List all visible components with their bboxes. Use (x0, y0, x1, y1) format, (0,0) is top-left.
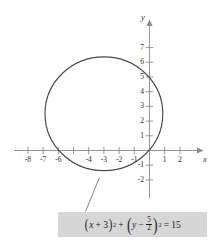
equation-rhs: 15 (171, 220, 181, 230)
x-tick-label: -6 (55, 156, 61, 164)
fraction-numerator: 5 (146, 217, 152, 224)
y-tick-label: 1 (130, 132, 144, 140)
close-paren-2: ) (153, 215, 158, 234)
circle-graph-figure: -8 -7 -6 -4 -3 -2 -1 1 2 7 6 5 4 3 2 1 -… (0, 0, 216, 242)
x-tick-label: -3 (101, 156, 107, 164)
y-tick-label: 4 (130, 88, 144, 96)
y-tick-label: 5 (130, 73, 144, 81)
equation-y-var: y (132, 220, 136, 230)
x-axis-arrow (197, 147, 204, 153)
x-tick-label: -8 (25, 156, 31, 164)
equation-minus: − (138, 220, 143, 230)
equation-plus: + (118, 220, 123, 230)
open-paren-1: ( (85, 217, 89, 232)
y-tick-label: 6 (130, 59, 144, 67)
equation-equals: = (164, 220, 169, 230)
y-tick-label: -2 (128, 176, 144, 184)
y-axis-label: y (141, 13, 145, 22)
y-tick-label: 2 (130, 117, 144, 125)
equation-text: (x+ 3)2+(y−52)2=15 (84, 215, 181, 234)
x-tick-label: 1 (163, 156, 167, 164)
x-axis-label: x (203, 155, 207, 164)
fraction-denominator: 2 (146, 224, 152, 232)
open-paren-2: ( (127, 215, 132, 234)
equation-x-var: x (89, 220, 93, 230)
close-paren-1: ) (109, 217, 113, 232)
y-axis-arrow (146, 20, 152, 27)
callout-leader-line (86, 178, 100, 212)
plot-canvas (0, 0, 216, 242)
x-tick-label: -7 (40, 156, 46, 164)
y-tick-label: 7 (130, 44, 144, 52)
x-tick-label: -4 (86, 156, 92, 164)
y-tick-label: 3 (130, 103, 144, 111)
y-tick-label: -1 (128, 161, 144, 169)
equation-plus-three: + 3 (95, 220, 108, 230)
equation-callout-box: (x+ 3)2+(y−52)2=15 (58, 212, 207, 237)
x-tick-label: -2 (116, 156, 122, 164)
x-tick-label: 2 (178, 156, 182, 164)
equation-fraction: 52 (146, 217, 152, 233)
